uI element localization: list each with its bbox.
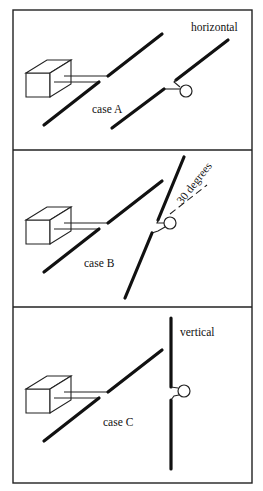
panel-case-b: case B 30 degrees xyxy=(26,157,215,298)
circle-element xyxy=(178,385,190,397)
circle-element xyxy=(164,217,176,229)
source-box-icon xyxy=(26,60,71,97)
left-strip-upper xyxy=(108,34,162,76)
left-strip-upper xyxy=(108,181,162,223)
circle-element xyxy=(180,85,192,97)
left-strip-upper xyxy=(108,350,162,392)
orientation-label: vertical xyxy=(180,326,214,338)
case-label: case A xyxy=(92,103,123,115)
source-box-icon xyxy=(26,207,71,244)
right-strip-upper xyxy=(176,40,228,80)
right-junction-lower xyxy=(152,227,165,233)
panel-case-a: case A horizontal xyxy=(26,21,238,128)
panel-case-c: case C vertical xyxy=(26,318,214,469)
orientation-label: horizontal xyxy=(191,21,238,33)
right-junction-upper xyxy=(157,220,164,223)
case-label: case C xyxy=(103,416,134,428)
three-case-diagram: case A horizontal case B 30 degrees xyxy=(0,0,263,491)
right-strip-upper xyxy=(158,157,184,220)
source-box-icon xyxy=(26,376,71,413)
case-label: case B xyxy=(84,257,115,269)
right-strip-lower xyxy=(125,233,152,298)
